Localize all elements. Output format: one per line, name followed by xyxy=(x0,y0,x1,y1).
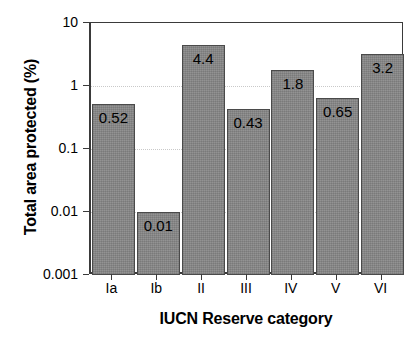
gridline xyxy=(91,86,402,87)
x-tick-label: IV xyxy=(268,281,313,295)
y-tick-label: 1 xyxy=(70,78,78,92)
y-tick-label: 0.001 xyxy=(43,267,78,281)
x-tick-label: II xyxy=(179,281,224,295)
x-tick-label: VI xyxy=(358,281,403,295)
y-axis-title: Total area protected (%) xyxy=(22,12,40,282)
bar-value-label: 0.01 xyxy=(138,218,179,233)
bar-value-label: 1.8 xyxy=(272,76,313,91)
bar-value-label: 4.4 xyxy=(183,51,224,66)
y-tick-label: 10 xyxy=(62,15,78,29)
bar-value-label: 3.2 xyxy=(362,60,403,75)
plot-area: 0.520.014.40.431.80.653.2 xyxy=(89,22,403,274)
x-axis-title: IUCN Reserve category xyxy=(89,310,403,328)
y-tick-label: 0.01 xyxy=(51,204,78,218)
bar: 0.65 xyxy=(316,98,359,275)
bar: 0.52 xyxy=(92,104,135,275)
x-tick-label: Ia xyxy=(89,281,134,295)
x-tick-label: Ib xyxy=(134,281,179,295)
bar: 3.2 xyxy=(361,54,404,275)
bar: 0.01 xyxy=(137,212,180,275)
bar-value-label: 0.52 xyxy=(93,110,134,125)
bar: 4.4 xyxy=(182,45,225,275)
bar: 0.43 xyxy=(227,109,270,275)
y-tick-label: 0.1 xyxy=(59,141,78,155)
y-tick-mark xyxy=(83,274,89,275)
chart-figure: Total area protected (%) 1010.10.010.001… xyxy=(0,0,416,345)
x-tick-label: III xyxy=(224,281,269,295)
bar-value-label: 0.65 xyxy=(317,104,358,119)
bar: 1.8 xyxy=(271,70,314,275)
x-tick-label: V xyxy=(313,281,358,295)
bar-value-label: 0.43 xyxy=(228,115,269,130)
